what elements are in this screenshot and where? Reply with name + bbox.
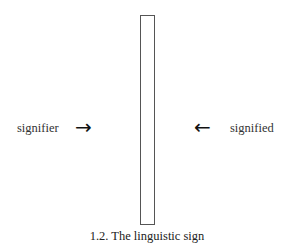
right-arrow-icon: →	[75, 116, 92, 138]
figure-caption: 1.2. The linguistic sign	[0, 229, 286, 244]
signified-label: signified	[230, 120, 274, 136]
left-arrow-icon: ←	[194, 116, 211, 138]
signifier-label: signifier	[17, 120, 59, 136]
sign-bar	[140, 15, 155, 225]
